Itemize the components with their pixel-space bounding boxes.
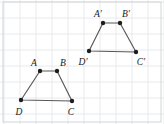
shapes-layer: ABCDA′B′C′D′ [15,9,147,117]
vertex-point-d-prime [87,49,91,53]
vertex-point-c-prime [134,50,138,54]
vertex-label-a-prime: A′ [93,9,103,19]
trapezoid-abcd: ABCD [15,58,75,117]
trapezoid-a-prime-b-prime-c-prime-d-prime-outline [89,23,136,52]
vertex-point-a-prime [101,21,105,25]
vertex-label-c: C [68,107,75,117]
vertex-label-d: D [15,107,23,117]
vertex-point-b [55,69,59,73]
vertex-label-d-prime: D′ [78,57,89,67]
vertex-point-a [38,69,42,73]
figure-canvas: ABCDA′B′C′D′ [0,0,164,124]
vertex-label-c-prime: C′ [137,57,146,67]
vertex-point-c [70,99,74,103]
vertex-label-b: B [60,58,66,68]
geometry-figure: ABCDA′B′C′D′ [0,0,164,124]
trapezoid-abcd-outline [21,71,72,101]
vertex-point-b-prime [118,21,122,25]
vertex-label-a: A [30,58,37,68]
vertex-point-d [19,98,23,102]
vertex-label-b-prime: B′ [122,9,131,19]
